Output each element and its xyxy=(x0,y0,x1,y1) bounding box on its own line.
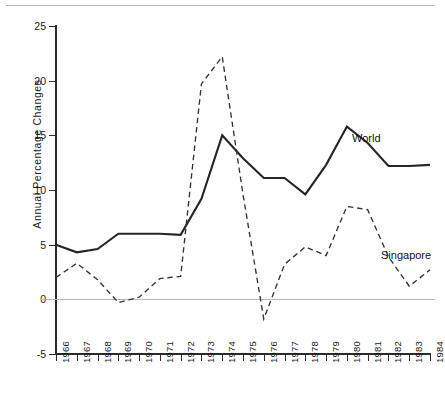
series-label-world: World xyxy=(352,132,381,144)
line-series-singapore xyxy=(56,57,430,319)
line-series-world xyxy=(56,127,430,253)
series-label-singapore: Singapore xyxy=(381,249,431,261)
